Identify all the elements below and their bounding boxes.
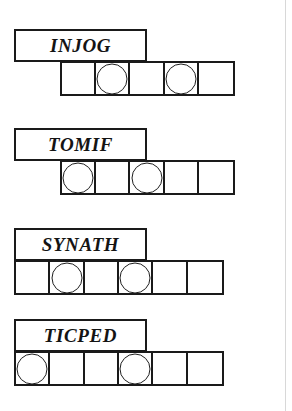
grid-cell-empty[interactable] [188, 353, 222, 384]
cell-strip [14, 260, 224, 295]
grid-cell-empty[interactable] [130, 63, 164, 94]
word-label-text: INJOG [50, 36, 111, 55]
word-label-text: TICPED [44, 326, 117, 345]
grid-cell-filled[interactable] [119, 353, 153, 384]
circle-token-icon [165, 63, 196, 94]
grid-cell-filled[interactable] [16, 353, 50, 384]
circle-token-icon [97, 63, 128, 94]
word-label-box: SYNATH [14, 228, 147, 261]
cell-strip [60, 160, 235, 195]
grid-cell-empty[interactable] [199, 162, 233, 193]
grid-cell-empty[interactable] [199, 63, 233, 94]
word-label-box: INJOG [14, 29, 147, 62]
grid-cell-empty[interactable] [85, 262, 119, 293]
circle-token-icon [120, 353, 151, 384]
page-edge-line [285, 0, 286, 411]
grid-cell-empty[interactable] [153, 353, 187, 384]
grid-cell-filled[interactable] [165, 63, 199, 94]
circle-token-icon [17, 353, 48, 384]
diagram-sheet: INJOGTOMIFSYNATHTICPED [0, 0, 292, 411]
grid-cell-empty[interactable] [188, 262, 222, 293]
cell-strip [60, 61, 235, 96]
grid-cell-filled[interactable] [50, 262, 84, 293]
word-label-text: TOMIF [48, 135, 113, 154]
grid-cell-empty[interactable] [16, 262, 50, 293]
grid-cell-filled[interactable] [96, 63, 130, 94]
cell-strip [14, 351, 224, 386]
word-label-text: SYNATH [42, 235, 120, 254]
grid-cell-filled[interactable] [119, 262, 153, 293]
word-label-box: TICPED [14, 319, 147, 352]
grid-cell-empty[interactable] [85, 353, 119, 384]
grid-cell-empty[interactable] [153, 262, 187, 293]
grid-cell-filled[interactable] [62, 162, 96, 193]
grid-cell-empty[interactable] [165, 162, 199, 193]
grid-cell-empty[interactable] [50, 353, 84, 384]
circle-token-icon [51, 262, 82, 293]
grid-cell-filled[interactable] [130, 162, 164, 193]
circle-token-icon [131, 162, 162, 193]
word-label-box: TOMIF [14, 128, 147, 161]
grid-cell-empty[interactable] [96, 162, 130, 193]
circle-token-icon [120, 262, 151, 293]
grid-cell-empty[interactable] [62, 63, 96, 94]
circle-token-icon [63, 162, 94, 193]
